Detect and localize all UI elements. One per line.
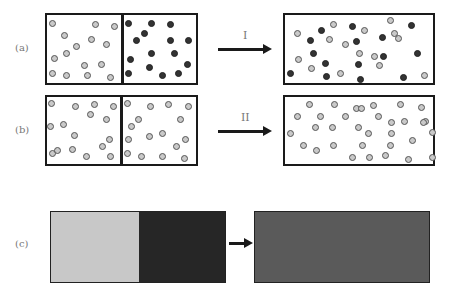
light-particle-icon [128,123,135,130]
arrow-right-icon [229,242,245,245]
light-particle-icon [69,146,76,153]
light-particle-icon [349,154,356,161]
dark-particle-icon [184,61,191,68]
dark-particle-icon [353,38,360,45]
light-particle-icon [313,147,320,154]
light-particle-icon [287,130,294,137]
light-particle-icon [103,41,110,48]
light-particle-icon [295,56,302,63]
light-particle-icon [49,70,56,77]
dark-particle-icon [400,74,407,81]
light-particle-icon [337,70,344,77]
dark-particle-icon [171,50,178,57]
light-particle-icon [366,154,373,161]
light-particle-icon [165,101,172,108]
light-particle-icon [361,27,368,34]
light-particle-icon [370,102,377,109]
dark-particle-icon [414,50,421,57]
dark-particle-icon [167,37,174,44]
light-particle-icon [376,62,383,69]
dark-particle-icon [148,20,155,27]
dark-particle-icon [355,61,362,68]
light-particle-icon [135,116,142,123]
light-particle-icon [87,111,94,118]
light-particle-icon [365,130,372,137]
light-particle-icon [63,50,70,57]
light-particle-icon [73,43,80,50]
light-particle-icon [181,155,188,162]
light-particle-icon [60,121,67,128]
light-particle-icon [312,124,319,131]
light-particle-icon [387,17,394,24]
light-particle-icon [84,72,91,79]
light-particle-icon [397,101,404,108]
light-particle-icon [420,119,427,126]
step-ii-label: II [241,111,250,124]
light-particle-icon [106,136,113,143]
light-particle-icon [317,113,324,120]
light-particle-icon [330,21,337,28]
light-particle-icon [159,153,166,160]
light-particle-icon [342,113,349,120]
light-particle-icon [146,133,153,140]
light-particle-icon [61,32,68,39]
light-particle-icon [387,142,394,149]
light-particle-icon [54,147,61,154]
light-particle-icon [306,101,313,108]
light-particle-icon [49,20,56,27]
light-particle-icon [107,153,114,160]
light-particle-icon [395,35,402,42]
light-particle-icon [300,142,307,149]
light-particle-icon [125,136,132,143]
light-particle-icon [359,142,366,149]
dark-particle-icon [287,70,294,77]
step-i-label: I [243,29,247,42]
light-particle-icon [107,74,114,81]
panel-a-partition [121,13,124,85]
panel-c-dark-block [139,211,226,283]
dark-particle-icon [318,27,325,34]
light-particle-icon [185,103,192,110]
light-particle-icon [388,130,395,137]
light-particle-icon [355,124,362,131]
light-particle-icon [409,137,416,144]
dark-particle-icon [310,50,317,57]
light-particle-icon [375,113,382,120]
light-particle-icon [173,143,180,150]
light-particle-icon [388,119,395,126]
dark-particle-icon [379,34,386,41]
light-particle-icon [405,156,412,163]
light-particle-icon [51,55,58,62]
light-particle-icon [124,150,131,157]
light-particle-icon [329,124,336,131]
dark-particle-icon [133,37,140,44]
arrow-right-icon [218,48,264,51]
light-particle-icon [429,154,436,161]
light-particle-icon [99,143,106,150]
light-particle-icon [371,53,378,60]
light-particle-icon [356,50,363,57]
light-particle-icon [72,103,79,110]
light-particle-icon [429,129,436,136]
dark-particle-icon [167,21,174,28]
light-particle-icon [331,101,338,108]
dark-particle-icon [141,30,148,37]
light-particle-icon [421,72,428,79]
panel-b-label: (b) [15,124,29,135]
light-particle-icon [382,152,389,159]
dark-particle-icon [322,60,329,67]
light-particle-icon [308,65,315,72]
light-particle-icon [88,36,95,43]
light-particle-icon [83,153,90,160]
dark-particle-icon [175,70,182,77]
light-particle-icon [103,116,110,123]
light-particle-icon [124,100,131,107]
light-particle-icon [81,62,88,69]
dark-particle-icon [125,20,132,27]
dark-particle-icon [146,64,153,71]
light-particle-icon [147,103,154,110]
panel-c-label: (c) [15,238,28,249]
light-particle-icon [294,30,301,37]
light-particle-icon [358,105,365,112]
light-particle-icon [330,142,337,149]
